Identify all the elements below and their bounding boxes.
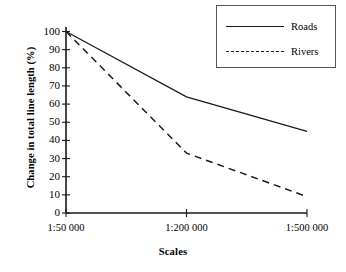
legend-label-roads: Roads: [291, 21, 317, 32]
x-tick-label: 1:500 000: [286, 222, 328, 233]
chart-legend: Roads Rivers: [216, 5, 336, 68]
x-tick-label: 1:50 000: [47, 222, 84, 233]
legend-entry-roads: Roads: [217, 17, 337, 35]
chart-figure: Change in total line length (%) 10090807…: [0, 0, 346, 272]
legend-entry-rivers: Rivers: [217, 42, 337, 60]
legend-swatch-solid-icon: [226, 26, 284, 27]
x-tick-label: 1:200 000: [165, 222, 207, 233]
legend-swatch-dashed-icon: [226, 51, 284, 52]
x-axis-title: Scales: [0, 246, 346, 257]
legend-label-rivers: Rivers: [291, 46, 318, 57]
